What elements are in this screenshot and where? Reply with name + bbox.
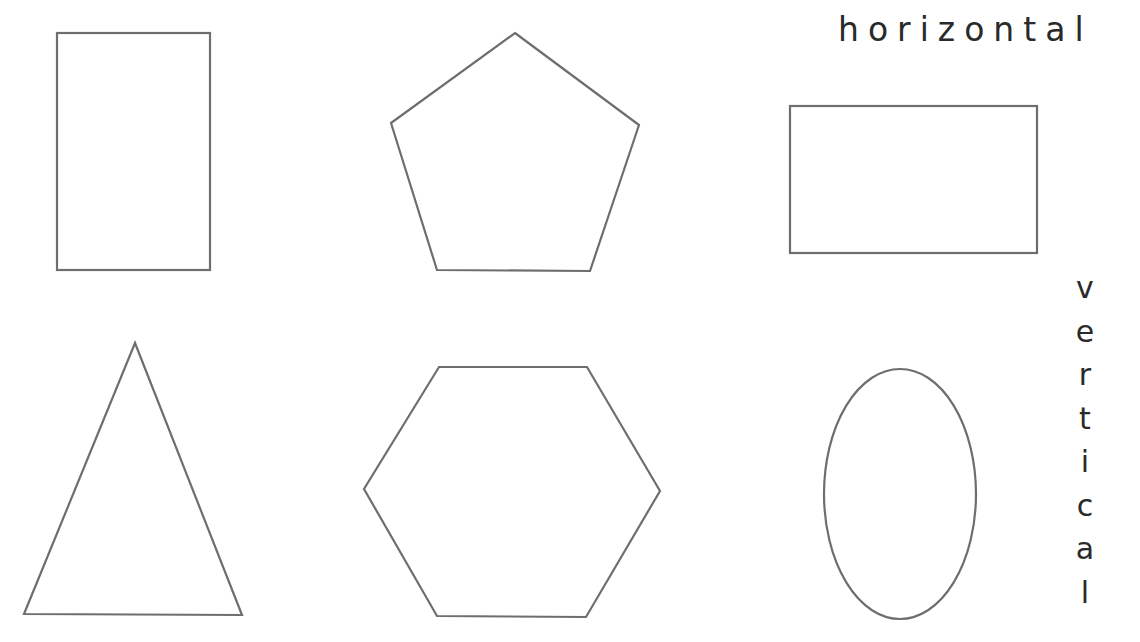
horizontal-label: horizontal bbox=[838, 10, 1093, 50]
vertical-letter: a bbox=[1072, 527, 1098, 571]
pentagon bbox=[391, 33, 639, 271]
vertical-letter: r bbox=[1072, 353, 1098, 397]
rectangle-vertical bbox=[57, 33, 210, 270]
vertical-letter: i bbox=[1072, 440, 1098, 484]
shapes-canvas bbox=[0, 0, 1140, 642]
hexagon bbox=[364, 367, 660, 617]
vertical-letter: v bbox=[1072, 266, 1098, 310]
triangle bbox=[24, 343, 242, 615]
ellipse-vertical bbox=[824, 369, 976, 619]
rectangle-horizontal bbox=[790, 106, 1037, 253]
vertical-letter: l bbox=[1072, 571, 1098, 615]
vertical-letter: c bbox=[1072, 484, 1098, 528]
vertical-label: v e r t i c a l bbox=[1072, 266, 1098, 614]
vertical-letter: t bbox=[1072, 397, 1098, 441]
vertical-letter: e bbox=[1072, 310, 1098, 354]
